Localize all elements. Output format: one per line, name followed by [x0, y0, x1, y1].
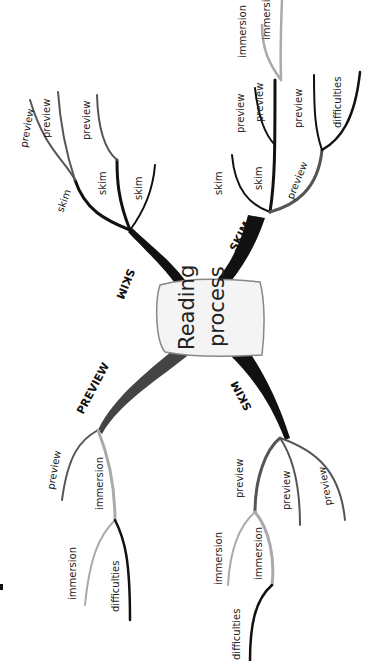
label: preview	[18, 108, 36, 149]
label: immersion	[237, 5, 248, 58]
label: preview	[316, 466, 334, 507]
label: preview	[41, 99, 52, 138]
label-b1: SKIM	[113, 267, 137, 301]
label: difficulties	[332, 77, 343, 128]
label: skim	[55, 188, 73, 214]
label: immersion	[261, 0, 272, 40]
label: preview	[81, 101, 92, 140]
label: preview	[234, 459, 245, 498]
label: preview	[285, 160, 310, 201]
label: skim	[213, 171, 224, 195]
label: immersion	[94, 457, 105, 510]
label: immersion	[213, 532, 224, 585]
label: skim	[133, 176, 144, 200]
center-label-line1: Reading	[175, 265, 199, 350]
label: preview	[281, 471, 292, 510]
label: immersion	[253, 527, 264, 580]
label: difficulties	[231, 609, 242, 660]
label: preview	[235, 94, 246, 133]
label: preview	[254, 83, 265, 122]
margin-mark	[0, 584, 3, 590]
label: preview	[293, 89, 304, 128]
label: difficulties	[110, 561, 121, 612]
center-label-line2: process	[205, 266, 229, 347]
label-b4: SKIM	[228, 379, 254, 413]
mind-map: Reading process SKIM skim skim skim prev…	[0, 0, 367, 661]
label: preview	[45, 450, 63, 491]
label: skim	[97, 171, 108, 195]
label: skim	[253, 166, 264, 190]
label: immersion	[67, 547, 78, 600]
label-b3: PREVIEW	[74, 361, 112, 417]
